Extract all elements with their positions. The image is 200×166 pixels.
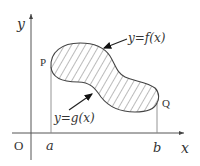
y-axis-label: y [16,16,26,32]
bound-b-label: b [153,140,161,155]
point-q-label: Q [162,97,170,109]
upper-curve-pointer [104,39,127,48]
lower-curve-label: y=g(x) [53,111,95,125]
bound-a-label: a [46,138,54,153]
upper-curve-label: y=f(x) [127,31,166,45]
origin-label: O [14,138,23,153]
lower-curve-pointer [69,94,92,110]
x-axis-label: x [181,140,189,156]
point-p-label: P [40,56,46,68]
hatched-region [51,43,159,112]
area-between-curves-diagram: y x O a b P Q y=f(x) y=g(x) [0,0,200,166]
